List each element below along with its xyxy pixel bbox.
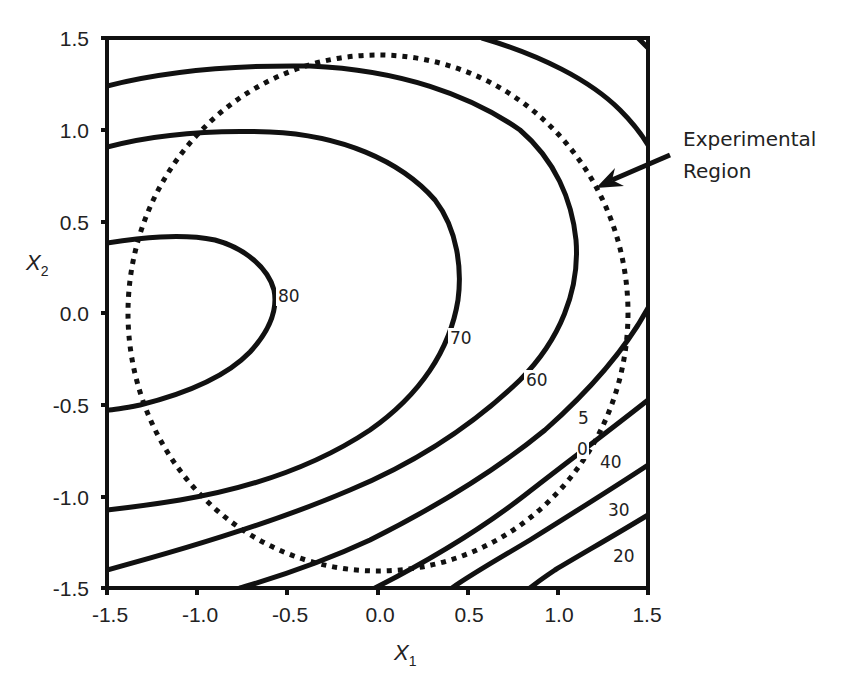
y-axis-title: X2	[25, 250, 49, 279]
x-tick-label: 0.5	[454, 603, 483, 626]
contour-label-80: 80	[278, 286, 300, 306]
contour-label-40: 40	[600, 452, 622, 472]
x-axis-title: X1	[393, 640, 417, 669]
x-tick-label: 1.0	[544, 603, 573, 626]
y-tick-label: 1.0	[60, 119, 89, 142]
contour-lines	[107, 38, 648, 588]
contour-label-50-part1: 5	[578, 408, 589, 428]
y-tick-label: 0.5	[60, 211, 89, 234]
y-axis-title-sub: 2	[41, 263, 49, 279]
x-tick-label: 1.5	[632, 603, 661, 626]
x-axis-title-main: X	[393, 640, 410, 665]
annotation-line1: Experimental	[683, 127, 816, 151]
contour-labels: 80 70 60 5 0 40 30 20	[276, 286, 639, 566]
svg-text:X2: X2	[25, 250, 49, 279]
annotation-arrow-icon	[596, 155, 670, 188]
y-tick-label: -0.5	[53, 394, 89, 417]
y-axis-title-main: X	[25, 250, 42, 275]
contour-chart: 1.5 1.0 0.5 0.0 -0.5 -1.0 -1.5 -1.5 -1.0…	[0, 0, 861, 685]
contour-label-50-part2: 0	[577, 439, 588, 459]
svg-text:X1: X1	[393, 640, 417, 669]
contour-label-20: 20	[613, 546, 635, 566]
annotation-line2: Region	[683, 159, 751, 183]
x-tick-labels: -1.5 -1.0 -0.5 0.0 0.5 1.0 1.5	[92, 603, 662, 626]
y-tick-label: -1.5	[53, 577, 89, 600]
contour-label-60: 60	[526, 370, 548, 390]
y-tick-labels: 1.5 1.0 0.5 0.0 -0.5 -1.0 -1.5	[53, 27, 89, 600]
x-tick-label: 0.0	[365, 603, 394, 626]
y-tick-label: 1.5	[60, 27, 89, 50]
y-tick-label: -1.0	[53, 486, 89, 509]
x-tick-label: -1.5	[92, 603, 128, 626]
x-tick-label: -0.5	[272, 603, 308, 626]
x-axis-title-sub: 1	[409, 653, 417, 669]
y-tick-label: 0.0	[60, 302, 89, 325]
contour-label-70: 70	[450, 328, 472, 348]
contour-label-30: 30	[608, 500, 630, 520]
x-tick-label: -1.0	[182, 603, 218, 626]
